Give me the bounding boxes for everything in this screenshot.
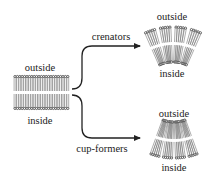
cup-former-outside-label: outside bbox=[159, 108, 190, 119]
flat-inside-label: inside bbox=[27, 115, 52, 126]
membrane-diagram: outside inside crenators cup-formers out… bbox=[0, 0, 220, 181]
cup-former-bilayer: outside inside bbox=[150, 108, 198, 173]
crenator-inside-label: inside bbox=[159, 68, 184, 79]
crenator-bilayer: outside inside bbox=[144, 11, 201, 79]
cup-formers-arrow-icon bbox=[72, 95, 140, 138]
cup-former-inside-label: inside bbox=[161, 162, 186, 173]
crenator-outside-label: outside bbox=[157, 11, 188, 22]
crenator-lipid-bilayer-icon bbox=[144, 26, 201, 66]
cup-formers-label: cup-formers bbox=[76, 143, 127, 154]
cup-formers-branch: cup-formers bbox=[72, 95, 140, 154]
flat-bilayer: outside inside bbox=[14, 62, 69, 126]
crenators-arrow-icon bbox=[72, 46, 140, 89]
flat-lipid-bilayer-icon bbox=[14, 75, 69, 109]
flat-outside-label: outside bbox=[25, 62, 56, 73]
cup-former-lipid-bilayer-icon bbox=[150, 119, 198, 159]
crenators-branch: crenators bbox=[72, 31, 140, 89]
crenators-label: crenators bbox=[92, 31, 130, 42]
